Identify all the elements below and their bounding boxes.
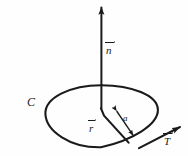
radius-label: a <box>123 114 128 123</box>
curve-label: C <box>27 96 35 108</box>
vector-arrow-overbar-t <box>163 133 172 134</box>
position-vector-label-text: r <box>89 122 93 134</box>
normal-vector-label: n <box>106 45 112 56</box>
position-vector-label: r <box>89 123 93 134</box>
tangent-vector-label-text: T <box>164 135 170 147</box>
normal-vector-label-text: n <box>106 44 112 56</box>
figure-canvas: n C r a T <box>0 0 188 156</box>
tangent-vector-arrow <box>139 127 180 148</box>
diagram-svg <box>0 0 188 156</box>
vector-arrow-overbar-n <box>105 42 114 43</box>
tangent-vector-label: T <box>164 136 170 147</box>
vector-arrow-overbar-r <box>88 120 95 121</box>
